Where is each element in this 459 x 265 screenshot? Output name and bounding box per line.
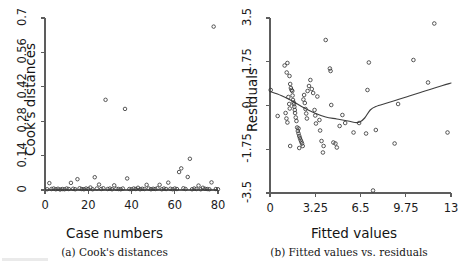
- y-axis-title-a: Cook's distances: [22, 52, 38, 156]
- scan-edge-artifact: [2, 258, 48, 261]
- data-point: [343, 121, 347, 125]
- data-point: [69, 181, 73, 185]
- panel-caption-b: (b) Fitted values vs. residuals: [239, 246, 459, 258]
- x-tick-label-a: 20: [74, 198, 102, 212]
- data-point: [316, 95, 320, 99]
- data-point: [297, 146, 301, 150]
- data-point: [284, 111, 288, 115]
- x-tick-label-b: 0: [253, 201, 287, 215]
- data-point: [305, 117, 309, 121]
- data-point: [307, 84, 311, 88]
- data-point: [158, 183, 162, 187]
- data-point: [396, 102, 400, 106]
- data-point: [352, 131, 356, 135]
- x-tick-label-b: 9.75: [389, 201, 423, 215]
- data-point: [197, 184, 201, 188]
- data-point: [311, 91, 315, 95]
- data-point: [304, 112, 308, 116]
- data-point: [291, 94, 295, 98]
- data-point: [286, 121, 290, 125]
- data-point: [329, 103, 333, 107]
- data-point: [367, 61, 371, 65]
- data-point: [112, 184, 116, 188]
- data-point: [288, 82, 292, 86]
- data-point: [97, 183, 101, 187]
- x-tick-label-a: 40: [118, 198, 146, 212]
- data-point: [288, 144, 292, 148]
- data-point: [177, 170, 181, 174]
- tick-marks-a: [41, 18, 218, 194]
- x-tick-label-b: 6.5: [344, 201, 378, 215]
- data-point: [287, 102, 291, 106]
- data-point: [303, 101, 307, 105]
- data-point: [341, 113, 345, 117]
- data-point: [335, 146, 339, 150]
- data-point: [364, 132, 368, 136]
- data-point: [302, 93, 306, 97]
- data-point: [167, 181, 171, 185]
- data-point: [313, 108, 317, 112]
- data-point: [313, 114, 317, 118]
- y-tick-label-b: 3.5: [240, 0, 254, 34]
- data-point: [321, 151, 325, 155]
- data-point: [426, 81, 430, 85]
- x-axis-title-a: Case numbers: [0, 225, 229, 241]
- data-point: [338, 124, 342, 128]
- data-point: [125, 177, 129, 181]
- data-point: [295, 119, 299, 123]
- data-point: [432, 22, 436, 26]
- data-point: [318, 129, 322, 133]
- data-point: [310, 87, 314, 91]
- data-point: [93, 175, 97, 179]
- data-point: [306, 89, 310, 93]
- data-point: [446, 131, 450, 135]
- data-point: [366, 88, 370, 92]
- x-tick-label-b: 3.25: [298, 201, 332, 215]
- panel-cooks-distances: 00.140.280.420.560.7 020406080 Cook's di…: [0, 0, 229, 265]
- data-point: [412, 58, 416, 62]
- data-point: [318, 118, 322, 122]
- data-point: [371, 189, 375, 193]
- data-point: [276, 114, 280, 118]
- panel-fitted-vs-residuals: -3.5-1.7501.753.5 03.256.59.7513 Residua…: [229, 0, 459, 265]
- x-tick-label-a: 60: [161, 198, 189, 212]
- data-point: [393, 142, 397, 146]
- x-tick-label-a: 0: [31, 198, 59, 212]
- data-point: [288, 107, 292, 111]
- data-point: [123, 107, 127, 111]
- y-tick-label-a: 0.7: [15, 0, 29, 34]
- data-point: [309, 78, 313, 82]
- data-point: [314, 122, 318, 126]
- data-point: [179, 167, 183, 171]
- data-point: [48, 181, 52, 185]
- data-point: [374, 128, 378, 132]
- data-point: [145, 183, 149, 187]
- x-tick-label-a: 80: [204, 198, 232, 212]
- data-point: [76, 177, 80, 181]
- data-point: [188, 157, 192, 161]
- data-point: [302, 98, 306, 102]
- data-point: [324, 38, 328, 42]
- data-point: [286, 61, 290, 65]
- scatter-points-a: [45, 25, 219, 191]
- panel-caption-a: (a) Cook's distances: [0, 246, 229, 258]
- data-point: [294, 116, 298, 120]
- data-point: [212, 25, 216, 29]
- data-point: [322, 144, 326, 148]
- data-point: [285, 117, 289, 121]
- scatter-points-b: [269, 22, 449, 193]
- x-axis-title-b: Fitted values: [249, 225, 459, 241]
- y-tick-label-a: 0: [15, 172, 29, 206]
- y-tick-label-b: -3.5: [240, 175, 254, 209]
- data-point: [210, 181, 214, 185]
- data-point: [186, 175, 190, 179]
- data-point: [320, 139, 324, 143]
- axes-group-b: [270, 18, 451, 193]
- data-point: [287, 95, 291, 99]
- axes-group-a: [45, 18, 218, 190]
- tick-marks-b: [266, 18, 451, 197]
- figure-container: 00.140.280.420.560.7 020406080 Cook's di…: [0, 0, 459, 265]
- data-point: [104, 98, 108, 102]
- data-point: [285, 71, 289, 75]
- x-tick-label-b: 13: [434, 201, 459, 215]
